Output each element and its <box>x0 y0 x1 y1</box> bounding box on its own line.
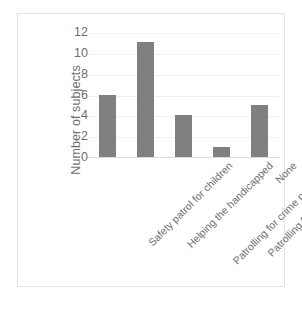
y-tick-label-8: 8 <box>58 68 88 81</box>
gridline-12 <box>88 33 279 34</box>
y-tick-label-2: 2 <box>58 130 88 143</box>
x-tick-label-4: None <box>273 160 299 186</box>
y-tick-label-10: 10 <box>58 47 88 60</box>
y-tick-label-6: 6 <box>58 89 88 102</box>
y-tick-label-0: 0 <box>58 151 88 164</box>
figure: Number of subjects 121086420 Safety patr… <box>0 0 302 310</box>
y-axis-tick-labels: 121086420 <box>56 14 88 288</box>
gridline-10 <box>88 54 279 55</box>
bar-3 <box>213 147 230 157</box>
bar-2 <box>175 115 192 157</box>
gridline-8 <box>88 75 279 76</box>
y-tick-label-12: 12 <box>58 26 88 39</box>
plot-area <box>88 33 279 158</box>
x-axis-line <box>88 157 279 158</box>
y-tick-label-4: 4 <box>58 109 88 122</box>
bar-4 <box>251 105 268 157</box>
gridline-6 <box>88 96 279 97</box>
x-axis-tick-labels: Safety patrol for childrenHelping the ha… <box>88 160 279 285</box>
bar-1 <box>137 42 154 157</box>
bar-0 <box>99 95 116 158</box>
chart-frame: Number of subjects 121086420 Safety patr… <box>17 13 285 287</box>
